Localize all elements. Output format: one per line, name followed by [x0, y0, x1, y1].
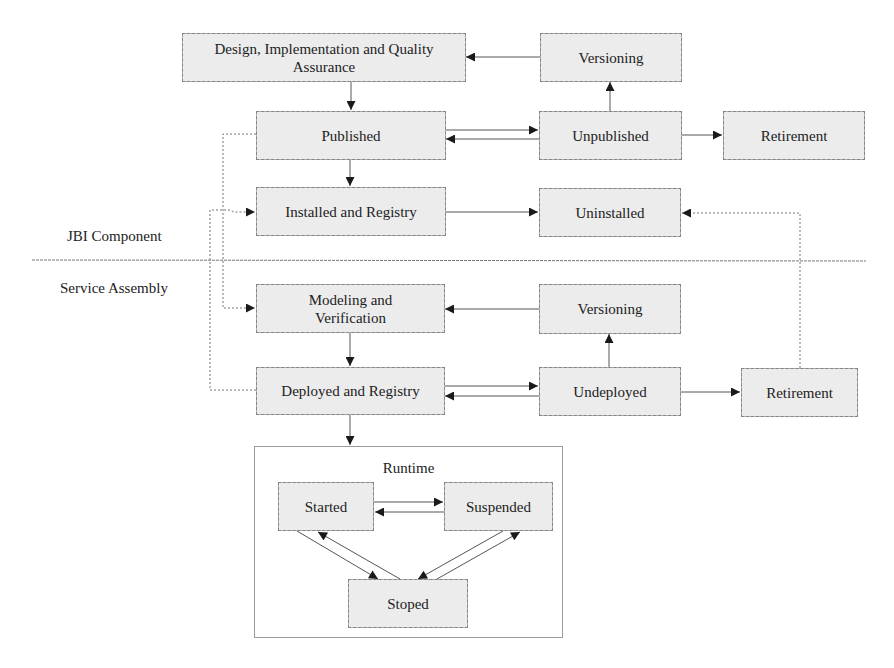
node-label: Versioning [579, 49, 644, 67]
lane-label-service-assembly: Service Assembly [60, 280, 168, 297]
node-versioning[interactable]: Versioning [540, 33, 682, 82]
node-label: Design, Implementation and Quality Assur… [193, 40, 455, 76]
node-label: Deployed and Registry [281, 382, 419, 400]
node-published[interactable]: Published [256, 111, 446, 160]
node-label: Started [305, 498, 348, 516]
edge-sa-retirement-to-uninstalled [682, 213, 800, 368]
node-started[interactable]: Started [278, 482, 374, 531]
node-stopped[interactable]: Stoped [348, 579, 468, 628]
node-label: Uninstalled [575, 204, 644, 222]
node-label: Suspended [466, 498, 531, 516]
node-design-implementation-qa[interactable]: Design, Implementation and Quality Assur… [182, 33, 466, 82]
runtime-title: Runtime [255, 460, 562, 477]
node-label: Unpublished [572, 127, 649, 145]
node-label: Undeployed [573, 383, 646, 401]
node-label: Published [321, 127, 380, 145]
lane-separator [32, 260, 866, 261]
node-label: Retirement [766, 384, 833, 402]
node-installed-and-registry[interactable]: Installed and Registry [256, 187, 446, 236]
node-label: Versioning [578, 300, 643, 318]
node-retirement[interactable]: Retirement [723, 111, 865, 160]
edge-published-to-modeling [223, 134, 256, 308]
node-deployed-and-registry[interactable]: Deployed and Registry [256, 367, 445, 415]
node-label: Modeling and Verification [287, 291, 414, 327]
node-sa-retirement[interactable]: Retirement [741, 368, 858, 417]
node-uninstalled[interactable]: Uninstalled [539, 188, 681, 237]
node-label: Installed and Registry [285, 203, 417, 221]
jbi-lifecycle-diagram: JBI Component Service Assembly Design, I… [0, 0, 894, 668]
node-undeployed[interactable]: Undeployed [539, 367, 681, 416]
node-unpublished[interactable]: Unpublished [539, 111, 682, 160]
edge-deployed-to-installed [210, 210, 256, 390]
lane-label-jbi-component: JBI Component [67, 228, 162, 245]
node-sa-versioning[interactable]: Versioning [539, 284, 681, 334]
node-label: Stoped [387, 595, 429, 613]
node-suspended[interactable]: Suspended [444, 482, 553, 531]
node-label: Retirement [761, 127, 828, 145]
node-modeling-and-verification[interactable]: Modeling and Verification [256, 284, 445, 333]
